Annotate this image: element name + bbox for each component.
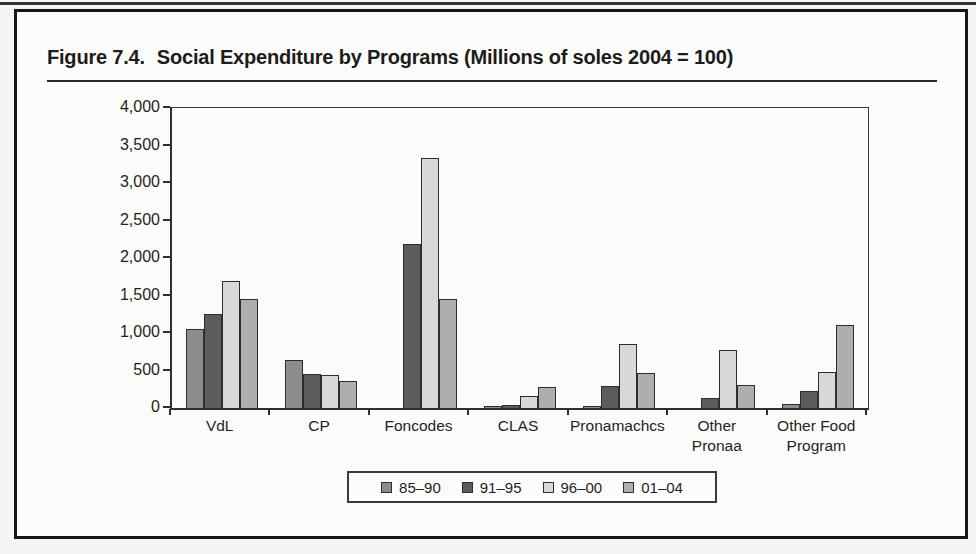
bar-01–04-CP [339,381,357,408]
bar-96–00-Foncodes [421,158,439,409]
y-axis-tick [163,106,170,108]
bar-01–04-Foncodes [439,299,457,409]
bar-91–95-Other Food [800,391,818,408]
y-axis-tick-label: 1,500 [60,286,160,304]
y-axis-tick-label: 2,000 [60,248,160,266]
legend-swatch [462,482,473,493]
bar-01–04-CLAS [538,387,556,408]
chart-legend: 85–9091–9596–0001–04 [347,471,717,503]
y-axis-tick [163,256,170,258]
bar-96–00-VdL [222,281,240,408]
y-axis-tick [163,144,170,146]
bar-96–00-Other Food [818,372,836,408]
legend-label: 85–90 [399,479,441,496]
y-axis-tick [163,181,170,183]
bar-91–95-Pronamachcs [601,386,619,408]
bar-96–00-CP [321,375,339,408]
y-axis-tick-label: 3,500 [60,136,160,154]
bar-91–95-Foncodes [403,244,421,408]
y-axis-tick [163,406,170,408]
legend-item: 85–90 [381,479,441,496]
legend-label: 01–04 [641,479,683,496]
bar-85–90-VdL [186,329,204,409]
y-axis-tick-label: 1,000 [60,323,160,341]
legend-swatch [381,482,392,493]
y-axis-tick-label: 4,000 [60,98,160,116]
x-axis-tick [766,409,768,415]
x-axis-tick [865,409,867,415]
legend-label: 96–00 [561,479,603,496]
legend-item: 91–95 [462,479,522,496]
bar-91–95-Other [701,398,719,408]
y-axis-tick-label: 500 [60,361,160,379]
bar-01–04-Pronamachcs [637,373,655,408]
x-axis-tick [567,409,569,415]
bar-91–95-VdL [204,314,222,408]
category-label: Other Food Program [756,416,876,456]
plot-area [170,107,869,410]
y-axis-tick-label: 0 [60,398,160,416]
y-axis-tick [163,331,170,333]
legend-item: 01–04 [623,479,683,496]
bar-85–90-Pronamachcs [583,406,601,408]
bar-chart: 05001,0001,5002,0002,5003,0003,5004,000V… [0,0,976,554]
y-axis-tick-label: 2,500 [60,211,160,229]
bar-96–00-CLAS [520,396,538,408]
legend-swatch [623,482,634,493]
bar-01–04-VdL [240,299,258,408]
x-axis-tick [169,409,171,415]
legend-swatch [543,482,554,493]
legend-label: 91–95 [480,479,522,496]
legend-item: 96–00 [543,479,603,496]
bar-01–04-Other [737,385,755,408]
bar-01–04-Other Food [836,325,854,408]
bar-96–00-Pronamachcs [619,344,637,408]
bar-85–90-Other Food [782,404,800,408]
y-axis-tick [163,294,170,296]
x-axis-tick [268,409,270,415]
y-axis-tick-label: 3,000 [60,173,160,191]
bar-91–95-CP [303,374,321,409]
x-axis-tick [368,409,370,415]
x-axis-tick [467,409,469,415]
bar-91–95-CLAS [502,405,520,408]
bar-85–90-CP [285,360,303,408]
y-axis-tick [163,219,170,221]
bar-85–90-CLAS [484,406,502,408]
bar-96–00-Other [719,350,737,408]
x-axis-tick [666,409,668,415]
y-axis-tick [163,369,170,371]
